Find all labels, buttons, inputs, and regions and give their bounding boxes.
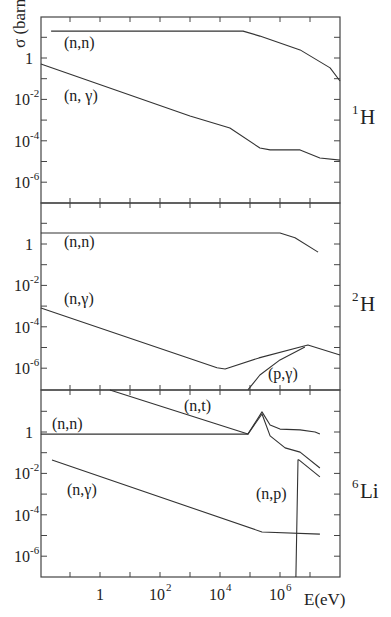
nucleus-label-mass: 6 — [352, 476, 359, 491]
y-tick-label: 10 — [14, 507, 30, 524]
y-tick-label: 10 — [14, 133, 30, 150]
nucleus-label-mass: 1 — [352, 102, 359, 117]
y-tick-label: 10 — [14, 360, 30, 377]
panel-6Li: 110-210-410-6(n,n)(n,t)(n,p)(n,γ)6Li — [14, 390, 379, 577]
series-line-(n,n) — [41, 412, 320, 434]
series-label: (p,γ) — [268, 365, 298, 383]
nucleus-label-mass: 2 — [352, 289, 359, 304]
y-tick-label: 10 — [14, 174, 30, 191]
x-tick-label: 10 — [149, 586, 165, 603]
y-tick-label-exponent: -6 — [30, 544, 40, 556]
y-tick-label: 1 — [25, 50, 33, 67]
nucleus-label: Li — [360, 479, 379, 503]
series-label: (n,n) — [64, 34, 95, 52]
panel-2H: 110-210-410-6(n,n)(n,γ)(p,γ)2H — [14, 203, 375, 390]
series-label: (n,n) — [52, 415, 83, 433]
nucleus-label: H — [360, 292, 375, 316]
y-tick-label-exponent: -2 — [30, 273, 39, 285]
y-axis-label: σ (barn) — [10, 0, 29, 48]
series-line-(n,γ) — [41, 308, 340, 369]
series-label: (n,p) — [256, 485, 287, 503]
x-tick-label: 1 — [96, 586, 104, 603]
series-label: (n,γ) — [67, 481, 97, 499]
y-tick-label-exponent: -4 — [30, 315, 40, 327]
plot-panels: 110-210-410-6(n,n)(n, γ)1H110-210-410-6(… — [14, 17, 379, 603]
y-tick-label: 10 — [14, 548, 30, 565]
y-tick-label-exponent: -4 — [30, 503, 40, 515]
nucleus-label: H — [360, 105, 375, 129]
x-tick-label-exponent: 2 — [166, 581, 172, 593]
panel-1H: 110-210-410-6(n,n)(n, γ)1H — [14, 17, 375, 203]
x-tick-label-exponent: 6 — [286, 581, 292, 593]
series-label: (n,γ) — [64, 290, 94, 308]
y-tick-label: 10 — [14, 319, 30, 336]
series-label: (n,t) — [184, 397, 211, 415]
y-tick-label: 1 — [25, 424, 33, 441]
series-label: (n,n) — [64, 233, 95, 251]
series-line-(n, γ) — [41, 64, 340, 160]
y-tick-label: 1 — [25, 236, 33, 253]
y-tick-label-exponent: -4 — [30, 129, 40, 141]
x-axis-label: E(eV) — [304, 590, 346, 609]
series-label: (n, γ) — [64, 87, 98, 105]
y-tick-label-exponent: -6 — [30, 170, 40, 182]
y-tick-label: 10 — [14, 277, 30, 294]
y-tick-label: 10 — [14, 465, 30, 482]
x-tick-label: 10 — [269, 586, 285, 603]
cross-section-figure: 110-210-410-6(n,n)(n, γ)1H110-210-410-6(… — [0, 0, 391, 617]
y-tick-label-exponent: -2 — [30, 461, 39, 473]
y-tick-label: 10 — [14, 91, 30, 108]
series-line-(n,p) — [296, 460, 320, 577]
y-tick-label-exponent: -6 — [30, 356, 40, 368]
x-tick-label: 10 — [209, 586, 225, 603]
y-tick-label-exponent: -2 — [30, 87, 39, 99]
x-tick-label-exponent: 4 — [226, 581, 232, 593]
